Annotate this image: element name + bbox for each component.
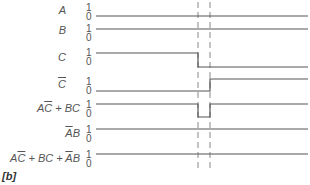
waveforms [0,0,310,185]
figure-caption: [b] [2,170,16,182]
waveform-c-bar [96,79,308,91]
timing-diagram: A 1 0 B 1 0 C 1 0 C 1 0 AC + BC 1 0 AB 1… [0,0,310,185]
waveform-expr1 [96,104,308,117]
waveform-c [96,53,308,67]
